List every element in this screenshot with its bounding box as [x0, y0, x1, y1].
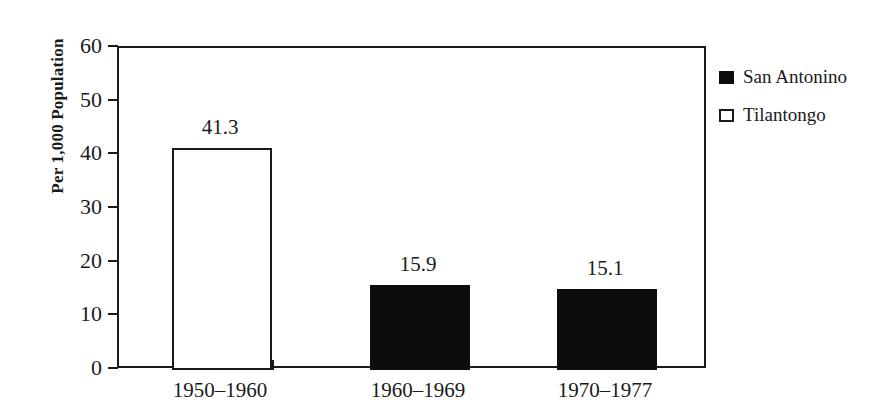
- chart-legend: San Antonino Tilantongo: [719, 66, 895, 142]
- bar[interactable]: [557, 289, 657, 370]
- bar[interactable]: [172, 148, 272, 370]
- x-axis-label: 1960–1969: [323, 377, 513, 403]
- open-square-icon: [719, 109, 734, 122]
- filled-square-icon: [719, 71, 734, 84]
- bar-value-label: 15.1: [535, 256, 675, 280]
- legend-label: San Antonino: [743, 66, 847, 88]
- y-axis-tick-label: 30: [58, 194, 102, 220]
- bar-value-label: 15.9: [348, 252, 488, 276]
- x-axis-tick: [172, 360, 174, 370]
- plot-area: [117, 46, 706, 368]
- legend-item-tilantongo[interactable]: Tilantongo: [719, 104, 895, 126]
- legend-item-san-antonino[interactable]: San Antonino: [719, 66, 895, 88]
- x-axis-tick: [272, 360, 274, 370]
- legend-label: Tilantongo: [743, 104, 826, 126]
- x-axis-label: 1950–1960: [125, 377, 315, 403]
- x-axis-label: 1970–1977: [510, 377, 700, 403]
- y-axis-tick-label: 10: [58, 301, 102, 327]
- y-axis-tick-label: 60: [58, 33, 102, 59]
- bar-chart-figure: Per 1,000 Population 0102030405060 41.31…: [0, 0, 896, 419]
- y-axis-tick-label: 40: [58, 140, 102, 166]
- y-axis-tick-label: 50: [58, 87, 102, 113]
- bar[interactable]: [370, 285, 470, 370]
- y-axis-tick-label: 20: [58, 248, 102, 274]
- bar-value-label: 41.3: [150, 115, 290, 139]
- y-axis-tick-label: 0: [58, 355, 102, 381]
